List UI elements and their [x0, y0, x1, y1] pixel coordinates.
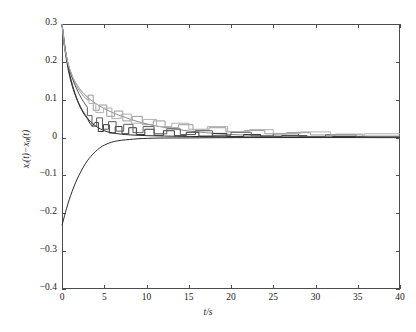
y-label-sub-i: i: [24, 162, 32, 164]
y-label-x1: x: [21, 164, 31, 168]
convergence-error-chart: [0, 0, 416, 332]
x-tick-label-1: 5: [84, 292, 124, 302]
x-tick-label-2: 10: [127, 292, 167, 302]
y-tick-label-7: −0.4: [13, 282, 57, 292]
y-label-end: (t): [21, 130, 31, 139]
x-axis-label: t/s: [0, 307, 416, 317]
x-tick-label-3: 15: [169, 292, 209, 302]
x-tick-label-8: 40: [380, 292, 416, 302]
y-tick-label-1: 0.2: [13, 55, 57, 65]
y-tick-label-0: 0.3: [13, 17, 57, 27]
x-tick-label-7: 35: [338, 292, 378, 302]
y-tick-label-6: −0.3: [13, 244, 57, 254]
y-label-mid: (t)−x: [21, 142, 31, 162]
x-tick-label-5: 25: [253, 292, 293, 302]
x-tick-label-6: 30: [296, 292, 336, 302]
y-label-sub-0: 0: [24, 139, 32, 143]
x-tick-label-0: 0: [42, 292, 82, 302]
figure-container: 05101520253035400.30.20.10−0.1−0.2−0.3−0…: [0, 0, 416, 332]
x-tick-label-4: 20: [211, 292, 251, 302]
y-axis-label-wrapper: xi(t)−x0(t): [15, 79, 31, 219]
y-axis-label: xi(t)−x0(t): [21, 130, 32, 168]
